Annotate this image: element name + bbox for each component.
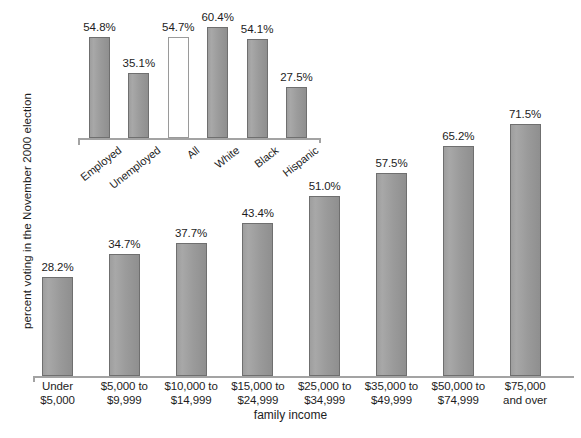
bar-main-5[interactable] <box>376 173 407 376</box>
bar-value-label-main-3: 43.4% <box>228 207 288 219</box>
chart-canvas: percent voting in the November 2000 elec… <box>0 0 581 438</box>
bar-main-2[interactable] <box>176 243 207 376</box>
x-tick-label-main-3: $15,000 to $24,999 <box>222 380 294 407</box>
bar-value-label-main-6: 65.2% <box>428 130 488 142</box>
bar-main-1[interactable] <box>109 254 140 376</box>
bar-value-label-main-4: 51.0% <box>295 180 355 192</box>
bar-value-label-main-7: 71.5% <box>495 108 555 120</box>
x-tick-label-main-6: $50,000 to $74,999 <box>422 380 494 407</box>
x-tick-label-main-4: $25,000 to $34,999 <box>289 380 361 407</box>
x-tick-label-main-1: $5,000 to $9,999 <box>88 380 160 407</box>
x-tick-label-main-5: $35,000 to $49,999 <box>356 380 428 407</box>
x-axis-title: family income <box>0 408 581 422</box>
bar-value-label-main-0: 28.2% <box>28 261 88 273</box>
bar-main-6[interactable] <box>443 146 474 376</box>
bar-main-3[interactable] <box>242 223 273 376</box>
main-x-axis-line <box>33 376 574 378</box>
bar-value-label-main-1: 34.7% <box>94 238 154 250</box>
x-tick-label-main-0: Under $5,000 <box>22 380 94 407</box>
bar-main-7[interactable] <box>510 124 541 376</box>
main-chart: family income 28.2%Under $5,00034.7%$5,0… <box>0 0 581 438</box>
x-tick-label-main-7: $75,000 and over <box>489 380 561 407</box>
bar-value-label-main-5: 57.5% <box>362 157 422 169</box>
bar-value-label-main-2: 37.7% <box>161 227 221 239</box>
bar-main-0[interactable] <box>42 277 73 376</box>
x-tick-label-main-2: $10,000 to $14,999 <box>155 380 227 407</box>
bar-main-4[interactable] <box>309 196 340 376</box>
